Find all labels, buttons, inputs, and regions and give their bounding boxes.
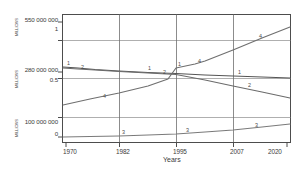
series-tag-2-b: 2 <box>163 69 166 75</box>
x-tick-label-2007: 2007 <box>230 148 244 155</box>
series-tag-1-b: 1 <box>148 65 151 71</box>
series-tag-3-b: 3 <box>186 127 189 133</box>
y-tick-label-100m: 100 000 000 <box>18 118 58 125</box>
x-tick-label-1995: 1995 <box>173 148 187 155</box>
series-tag-3-a: 3 <box>122 129 125 135</box>
x-tick-label-1982: 1982 <box>116 148 130 155</box>
y-tick-label-280m: 280 000 000 <box>18 66 58 73</box>
series-tag-4-c: 4 <box>259 33 262 39</box>
line-chart-figure: MILLIONS MILLIONS MILLIONS 550 000 000 2… <box>0 0 305 175</box>
x-axis-title: Years <box>163 156 181 163</box>
series-tag-1-c: 1 <box>178 61 181 67</box>
series-tag-3-c: 3 <box>255 122 258 128</box>
y-tick-label-550m: 550 000 000 <box>18 16 58 23</box>
series-tag-1-a: 1 <box>67 60 70 66</box>
x-tick-label-2020: 2020 <box>268 148 282 155</box>
y-tick-label-0: 0 <box>18 130 58 137</box>
series-tag-2-a: 2 <box>81 64 84 70</box>
y-tick-label-1: 1 <box>18 25 58 32</box>
series-tag-4-a: 4 <box>103 93 106 99</box>
x-tick-label-1970: 1970 <box>63 148 77 155</box>
series-tag-1-d: 1 <box>238 69 241 75</box>
series-tag-2-c: 2 <box>248 82 251 88</box>
series-tag-4-b: 4 <box>198 58 201 64</box>
y-tick-label-0.5: 0.5 <box>18 76 58 83</box>
